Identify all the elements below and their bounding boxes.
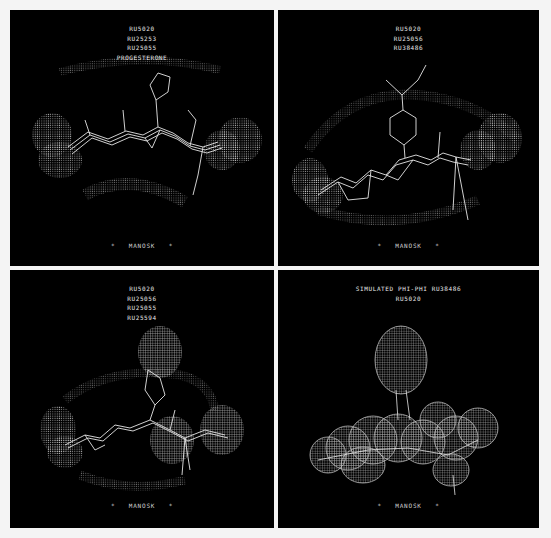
- compound-label: RU25055: [10, 43, 274, 53]
- star-marker: *: [435, 502, 439, 509]
- compound-label: RU25055: [10, 303, 274, 313]
- compound-label: RU5020: [278, 24, 539, 34]
- compound-label: RU5020: [278, 294, 539, 304]
- footer-label: MANOSK: [129, 502, 155, 509]
- panel-footer: * MANOSK *: [10, 242, 274, 249]
- compound-label-list: RU5020 RU25253 RU25055 PROGESTERONE: [10, 24, 274, 62]
- compound-label: SIMULATED PHI-PHI RU38486: [278, 284, 539, 294]
- compound-label: RU25056: [10, 294, 274, 304]
- star-marker: *: [169, 502, 173, 509]
- compound-label: PROGESTERONE: [10, 53, 274, 63]
- footer-label: MANOSK: [129, 242, 155, 249]
- star-marker: *: [377, 242, 381, 249]
- molecule-panel-bottom-right: SIMULATED PHI-PHI RU38486 RU5020 * MANOS…: [278, 270, 539, 528]
- compound-label: RU25594: [10, 313, 274, 323]
- star-marker: *: [377, 502, 381, 509]
- space-filling-model-graphic: [278, 270, 539, 528]
- footer-label: MANOSK: [395, 502, 421, 509]
- compound-label-list: SIMULATED PHI-PHI RU38486 RU5020: [278, 284, 539, 303]
- panel-footer: * MANOSK *: [10, 502, 274, 509]
- compound-label: RU25056: [278, 34, 539, 44]
- star-marker: *: [111, 502, 115, 509]
- compound-label-list: RU5020 RU25056 RU38486: [278, 24, 539, 53]
- compound-label: RU25253: [10, 34, 274, 44]
- panel-footer: * MANOSK *: [278, 242, 539, 249]
- compound-label: RU38486: [278, 43, 539, 53]
- footer-label: MANOSK: [395, 242, 421, 249]
- star-marker: *: [435, 242, 439, 249]
- molecule-panel-top-right: RU5020 RU25056 RU38486 * MANOSK *: [278, 10, 539, 266]
- compound-label-list: RU5020 RU25056 RU25055 RU25594: [10, 284, 274, 322]
- panel-footer: * MANOSK *: [278, 502, 539, 509]
- star-marker: *: [169, 242, 173, 249]
- star-marker: *: [111, 242, 115, 249]
- molecule-panel-top-left: RU5020 RU25253 RU25055 PROGESTERONE * MA…: [10, 10, 274, 266]
- compound-label: RU5020: [10, 284, 274, 294]
- molecule-panel-bottom-left: RU5020 RU25056 RU25055 RU25594 * MANOSK …: [10, 270, 274, 528]
- compound-label: RU5020: [10, 24, 274, 34]
